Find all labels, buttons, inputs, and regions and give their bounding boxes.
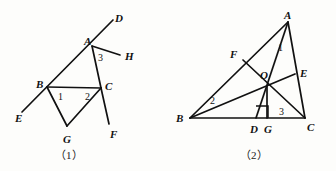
segment-bg: [47, 87, 67, 126]
figure-2: A F E O B D G C 1 2 3 （2）: [168, 0, 336, 171]
segment-gc: [67, 88, 101, 126]
angle-label-1: 1: [58, 92, 63, 102]
point-label-f: F: [110, 129, 117, 140]
point-label-c: C: [105, 81, 112, 92]
point-label-b: B: [36, 79, 43, 90]
point-label-c: C: [307, 122, 314, 133]
figure-1: D A H B C E G F 1 2 3 （1）: [0, 0, 168, 171]
point-label-f: F: [230, 49, 237, 60]
point-label-h: H: [125, 51, 134, 62]
angle-label-3: 3: [98, 53, 103, 63]
point-label-a: A: [284, 10, 291, 21]
angle-label-3: 3: [279, 107, 284, 117]
angle-label-1: 1: [278, 43, 283, 53]
figure-1-drawing: [0, 0, 168, 171]
figure-1-caption: （1）: [55, 150, 83, 161]
point-label-d: D: [250, 124, 258, 135]
segment-cf: [101, 88, 109, 124]
angle-label-2: 2: [85, 92, 90, 102]
geometry-figure-page: D A H B C E G F 1 2 3 （1）: [0, 0, 336, 171]
point-label-g: G: [63, 134, 71, 145]
figure-2-drawing: [168, 0, 336, 171]
point-label-b: B: [176, 113, 183, 124]
figure-2-caption: （2）: [240, 150, 268, 161]
segment-ab: [190, 22, 288, 118]
point-label-o: O: [260, 70, 268, 81]
line-ed: [22, 20, 113, 112]
segment-bc: [47, 87, 101, 88]
point-label-a: A: [84, 36, 91, 47]
point-label-e: E: [15, 113, 22, 124]
point-label-d: D: [115, 13, 123, 24]
angle-label-2: 2: [210, 96, 215, 106]
ray-ah: [92, 46, 120, 55]
point-label-e: E: [300, 68, 307, 79]
point-label-g: G: [264, 124, 272, 135]
